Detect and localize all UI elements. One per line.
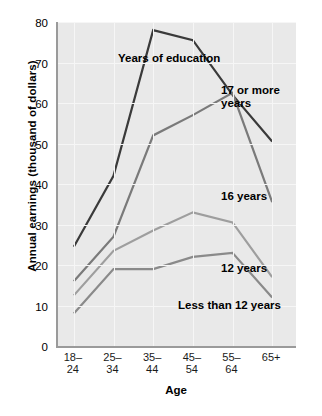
y-axis-tick-label: 20 (0, 260, 48, 272)
gridline-vertical (233, 22, 234, 346)
gridline-horizontal (58, 184, 296, 185)
x-axis-tick-label: 55–64 (222, 352, 240, 375)
x-axis-tick-label: 45–54 (183, 352, 201, 375)
annotation-series-less-than-12: Less than 12 years (178, 299, 281, 312)
gridline-vertical (153, 22, 154, 346)
annotation-series-17-or-more: 17 or more years (221, 84, 280, 109)
gridline-vertical (114, 22, 115, 346)
y-axis-tick-label: 10 (0, 301, 48, 313)
gridline-horizontal (58, 22, 296, 23)
y-axis-tick-labels: 01020304050607080 (0, 22, 52, 348)
y-axis-tick-label: 40 (0, 179, 48, 191)
x-axis-tick-labels: 18–2425–3435–4445–5455–6465+ (56, 352, 296, 386)
annotation-series-12: 12 years (221, 262, 267, 275)
chart-figure: Annual earnings (thousand of dollars) 01… (0, 0, 322, 416)
x-axis-tick-label: 35–44 (143, 352, 161, 375)
plot-area: Years of education 17 or more years 16 y… (56, 22, 296, 348)
gridline-vertical (272, 22, 273, 346)
gridline-horizontal (58, 144, 296, 145)
y-axis-tick-label: 70 (0, 58, 48, 70)
plot-inner (58, 22, 296, 346)
gridline-horizontal (58, 225, 296, 226)
gridline-vertical (193, 22, 194, 346)
annotation-years-of-education: Years of education (118, 52, 220, 65)
y-axis-tick-label: 30 (0, 220, 48, 232)
y-axis-tick-label: 60 (0, 98, 48, 110)
series-line-16-years (74, 93, 272, 281)
x-axis-tick-label: 25–34 (103, 352, 121, 375)
gridline-vertical (74, 22, 75, 346)
annotation-series-16: 16 years (221, 190, 267, 203)
y-axis-tick-label: 80 (0, 17, 48, 29)
y-axis-tick-label: 50 (0, 139, 48, 151)
x-axis-title: Age (56, 384, 296, 396)
y-axis-tick-label: 0 (0, 341, 48, 353)
x-axis-tick-label: 18–24 (64, 352, 82, 375)
x-axis-tick-label: 65+ (262, 352, 281, 364)
